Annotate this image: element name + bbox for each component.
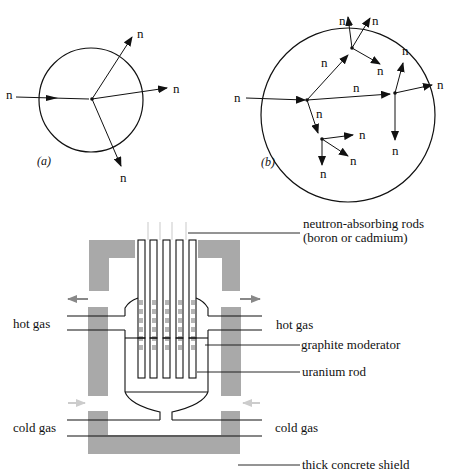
outgoing-neutron-arrow: [92, 37, 132, 99]
label-hot-gas-right: hot gas: [276, 317, 313, 332]
label-uranium-rod: uranium rod: [302, 364, 366, 379]
label-neutron-absorbing-rods: neutron-absorbing rods: [303, 216, 424, 231]
label-concrete-shield: thick concrete shield: [302, 457, 410, 472]
nucleus-boundary-b: [261, 28, 435, 202]
neutron-label: n: [359, 127, 366, 142]
concrete-shield-top-right: [198, 240, 240, 291]
diagram-canvas: n n n n (a) n n n n n n n n n: [0, 0, 456, 476]
label-cold-gas-left: cold gas: [13, 420, 56, 435]
concrete-shield-left-wall: [88, 307, 108, 396]
neutron-label: n: [316, 106, 323, 121]
neutron-label: n: [173, 81, 180, 96]
concrete-shield-base: [88, 411, 240, 454]
figure-a-single-fission: n n n n (a): [6, 26, 180, 185]
outgoing-neutron-arrow: [92, 88, 167, 99]
neutron-label: n: [377, 63, 384, 78]
concrete-shield-top-left: [89, 240, 135, 291]
neutron-label: n: [350, 153, 357, 168]
neutron-label: n: [320, 166, 327, 181]
neutron-label: n: [372, 13, 379, 28]
neutron-label: n: [137, 26, 144, 41]
uranium-rods: [138, 338, 196, 378]
neutron-label: n: [353, 80, 360, 95]
figure-b-chain-reaction: n n n n n n n n n n n n n (b): [234, 13, 444, 202]
neutron-label: n: [402, 43, 409, 58]
incoming-neutron-arrow: [246, 98, 305, 100]
neutron-label: n: [339, 13, 346, 28]
label-hot-gas-left: hot gas: [13, 316, 50, 331]
concrete-shield-right-wall: [221, 307, 241, 396]
label-rod-material: (boron or cadmium): [303, 230, 408, 245]
neutron-label: n: [437, 77, 444, 92]
outgoing-neutron-arrow: [92, 99, 121, 166]
control-rods: [138, 240, 196, 338]
neutron-label: n: [6, 87, 13, 102]
reactor-diagram: neutron-absorbing rods (boron or cadmium…: [13, 216, 424, 472]
neutron-label: n: [234, 90, 241, 105]
label-graphite-moderator: graphite moderator: [301, 337, 401, 352]
neutron-label: n: [392, 143, 399, 158]
graphite-moderator-blocks: [139, 300, 195, 350]
figure-caption-a: (a): [37, 154, 51, 168]
neutron-label: n: [120, 170, 127, 185]
neutron-label: n: [321, 55, 328, 70]
figure-caption-b: (b): [261, 155, 275, 169]
label-cold-gas-right: cold gas: [275, 420, 318, 435]
arrowhead-icon: [46, 95, 58, 101]
rod-guide-lines: [148, 222, 186, 240]
